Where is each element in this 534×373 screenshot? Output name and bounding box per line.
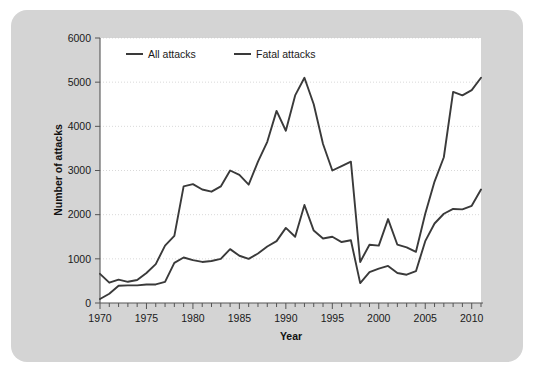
y-tick-label: 0 [85,297,91,309]
x-axis-title: Year [280,330,302,342]
x-tick-label: 1970 [88,312,112,324]
x-tick-label: 2010 [460,312,484,324]
y-tick-label: 2000 [68,208,92,220]
y-axis-ticks: 0100020003000400050006000 [68,32,100,309]
x-tick-label: 2005 [414,312,438,324]
x-tick-label: 1990 [274,312,298,324]
y-axis-title: Number of attacks [52,124,64,216]
x-tick-label: 1995 [321,312,345,324]
x-tick-label: 1975 [135,312,159,324]
y-tick-label: 5000 [68,76,92,88]
x-tick-label: 1985 [228,312,252,324]
y-tick-label: 6000 [68,32,92,44]
line-chart: 197019751980198519901995200020052010 010… [0,0,534,373]
y-tick-label: 4000 [68,120,92,132]
y-tick-label: 3000 [68,164,92,176]
chart-container: 197019751980198519901995200020052010 010… [0,0,534,373]
x-tick-label: 1980 [181,312,205,324]
x-axis-ticks: 197019751980198519901995200020052010 [88,303,483,324]
legend-label-fatal-attacks: Fatal attacks [256,48,316,60]
y-tick-label: 1000 [68,253,92,265]
x-tick-label: 2000 [367,312,391,324]
legend-label-all-attacks: All attacks [148,48,196,60]
